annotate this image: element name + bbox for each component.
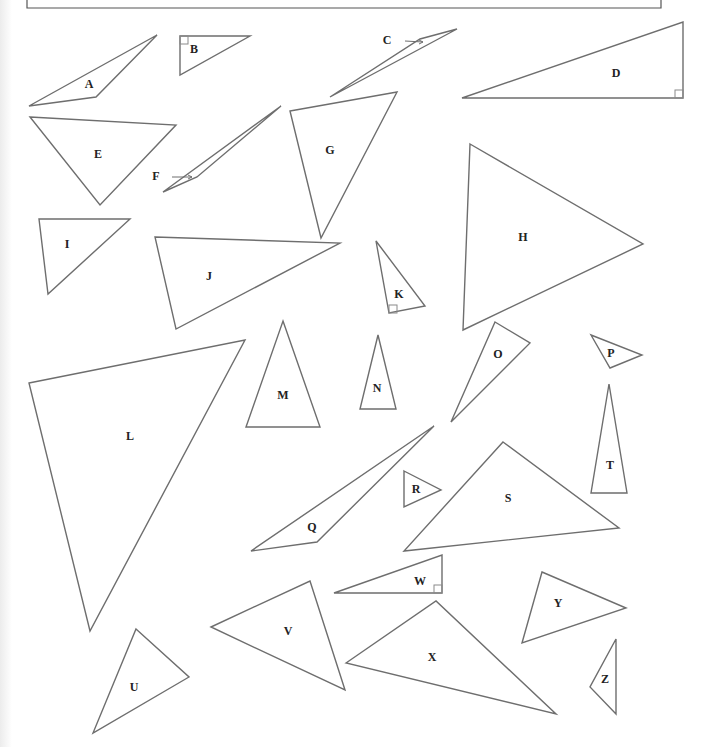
triangle-label: J xyxy=(206,269,212,283)
triangle-shape xyxy=(30,117,176,205)
triangle-label: H xyxy=(518,230,528,244)
triangle-label: Q xyxy=(307,520,316,534)
triangle-v: V xyxy=(211,581,345,690)
triangle-shape xyxy=(290,92,397,238)
triangle-shape xyxy=(155,237,340,329)
triangle-shape xyxy=(93,629,189,733)
triangle-label: L xyxy=(126,429,134,443)
triangle-label: Z xyxy=(601,672,609,686)
triangle-r: R xyxy=(404,471,441,507)
triangle-o: O xyxy=(451,322,530,422)
triangle-label: E xyxy=(94,147,102,161)
triangle-shape xyxy=(360,335,396,409)
triangle-shape xyxy=(376,241,425,313)
triangle-label: V xyxy=(284,624,293,638)
triangle-shape xyxy=(451,322,530,422)
triangle-u: U xyxy=(93,629,189,733)
triangle-d: D xyxy=(462,22,683,98)
triangle-label: P xyxy=(607,346,614,360)
triangle-label: D xyxy=(612,66,621,80)
triangle-shape xyxy=(330,29,457,97)
triangle-shape xyxy=(591,335,642,368)
triangle-k: K xyxy=(376,241,425,313)
triangle-label: X xyxy=(428,650,437,664)
triangle-label: O xyxy=(493,347,502,361)
triangle-b: B xyxy=(180,36,250,75)
triangle-f: F xyxy=(152,106,281,192)
triangle-label: T xyxy=(606,458,614,472)
triangle-label: R xyxy=(412,482,421,496)
triangle-label: C xyxy=(383,33,392,47)
triangle-s: S xyxy=(404,442,619,551)
triangle-w: W xyxy=(334,555,442,593)
triangle-e: E xyxy=(30,117,176,205)
triangle-c: C xyxy=(330,29,457,97)
triangle-shape xyxy=(29,35,157,106)
triangle-figure: ABCDEFGHIJKLMNOPQRSTUVWXYZ xyxy=(0,0,701,747)
triangle-shape xyxy=(246,321,320,427)
triangle-label: G xyxy=(325,143,334,157)
triangle-label: W xyxy=(414,574,426,588)
triangle-l: L xyxy=(29,340,245,631)
triangle-label: S xyxy=(505,491,512,505)
triangle-g: G xyxy=(290,92,397,238)
triangle-label: F xyxy=(152,169,159,183)
triangle-label: A xyxy=(85,77,94,91)
triangle-shape xyxy=(463,144,643,330)
triangle-shape xyxy=(522,572,626,643)
triangle-label: M xyxy=(277,388,288,402)
triangle-y: Y xyxy=(522,572,626,643)
triangle-j: J xyxy=(155,237,340,329)
triangle-shape xyxy=(462,22,683,98)
triangle-label: B xyxy=(190,42,198,56)
triangle-i: I xyxy=(39,219,130,294)
triangle-shape xyxy=(346,601,556,714)
triangle-a: A xyxy=(29,35,157,106)
triangle-layer: ABCDEFGHIJKLMNOPQRSTUVWXYZ xyxy=(29,22,683,733)
triangle-shape xyxy=(404,471,441,507)
triangle-m: M xyxy=(246,321,320,427)
triangle-p: P xyxy=(591,335,642,368)
triangle-label: U xyxy=(130,680,139,694)
triangle-shape xyxy=(39,219,130,294)
triangle-t: T xyxy=(591,384,627,493)
triangle-label: K xyxy=(394,287,404,301)
triangle-shape xyxy=(163,106,281,192)
triangle-x: X xyxy=(346,601,556,714)
triangle-label: I xyxy=(65,237,70,251)
triangle-z: Z xyxy=(590,639,616,714)
triangle-label: Y xyxy=(554,596,563,610)
triangle-h: H xyxy=(463,144,643,330)
triangle-label: N xyxy=(373,381,382,395)
triangle-shape xyxy=(29,340,245,631)
triangle-shape xyxy=(591,384,627,493)
triangle-shape xyxy=(211,581,345,690)
triangle-n: N xyxy=(360,335,396,409)
instructions-box-bottom-border xyxy=(27,0,661,8)
triangle-shape xyxy=(404,442,619,551)
